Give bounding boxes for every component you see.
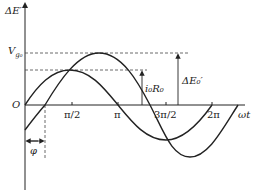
tick-label-pi-half: π/2 — [64, 110, 80, 120]
phi-label: φ — [30, 146, 37, 156]
diagram-canvas — [0, 0, 263, 195]
vg0-label: Vg₀ — [8, 46, 23, 59]
tick-label-three-pi-half: 3π/2 — [154, 110, 177, 120]
delta-e0-label: ΔE₀′ — [182, 76, 203, 86]
i0r0-label: i₀R₀ — [145, 84, 164, 94]
x-axis-label: ωt — [238, 110, 250, 120]
tick-label-two-pi: 2π — [207, 110, 220, 120]
phase-diagram: ΔE′ ωt O Vg₀ π/2 π 3π/2 2π i₀R₀ ΔE₀′ φ — [0, 0, 263, 195]
y-axis-label: ΔE′ — [5, 6, 22, 16]
tick-label-pi: π — [114, 110, 121, 120]
origin-label: O — [12, 100, 20, 110]
